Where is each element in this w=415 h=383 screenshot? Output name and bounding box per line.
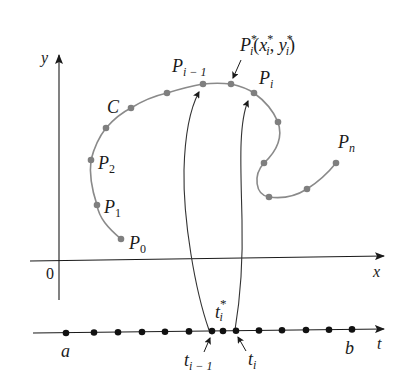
t-axis-group: a b t t*i ti − 1 ti: [33, 296, 384, 373]
curve-point: [275, 119, 282, 126]
origin-label: 0: [46, 265, 54, 282]
t-point: [326, 326, 333, 333]
curve-point: [304, 186, 311, 193]
curve-labels: C P0 P1 P2 Pi − 1 Pi Pn P*i(x*i, y*i): [97, 32, 355, 256]
t-point: [139, 329, 146, 336]
p-i-star-pointer-arrow: [233, 60, 241, 78]
point-t-i: [233, 328, 240, 335]
curve-point: [103, 125, 110, 132]
point-p-i-star: [228, 81, 235, 88]
curve-point: [261, 160, 268, 167]
t-axis-label: t: [377, 335, 382, 352]
label-p1: P1: [103, 197, 121, 220]
label-t-i-minus-1: ti − 1: [184, 350, 212, 373]
t-point: [279, 327, 286, 334]
point-p-i-minus-1: [200, 81, 207, 88]
label-p-i-minus-1: Pi − 1: [171, 56, 206, 79]
point-t-i-star: [220, 328, 227, 335]
curve-name-label: C: [107, 97, 120, 117]
t-point: [303, 327, 310, 334]
point-p-n: [333, 160, 340, 167]
point-a: [63, 330, 70, 337]
point-t-i-minus-1: [209, 328, 216, 335]
label-t-i: ti: [248, 349, 256, 372]
point-b: [349, 326, 356, 333]
point-p1: [94, 202, 101, 209]
t-point: [162, 328, 169, 335]
y-axis-label: y: [39, 49, 49, 67]
curve-c: [88, 81, 340, 243]
curve-point: [164, 90, 171, 97]
coordinate-axes: y x 0: [30, 49, 384, 300]
x-axis: [30, 256, 384, 261]
t-point: [256, 327, 263, 334]
label-a: a: [61, 341, 70, 361]
label-p0: P0: [128, 233, 146, 256]
label-p-i-star-coords: P*i(x*i, y*i): [239, 32, 295, 58]
arrow-t-i-minus-1-to-p-i-minus-1: [184, 92, 209, 330]
t-i-pointer-arrow: [238, 337, 246, 351]
curve-path: [90, 83, 336, 239]
point-p-i: [251, 90, 258, 97]
point-p2: [88, 157, 95, 164]
curve-points: [88, 81, 340, 243]
point-p0: [118, 236, 125, 243]
arrow-t-i-to-p-i: [235, 101, 248, 330]
label-t-i-star: t*i: [215, 296, 227, 324]
label-p2: P2: [97, 153, 115, 176]
label-p-i: Pi: [258, 68, 273, 91]
t-point: [91, 329, 98, 336]
t-axis-points: [63, 326, 356, 336]
curve-point: [128, 105, 135, 112]
parametric-curve-diagram: y x 0 C P0 P1: [0, 0, 415, 383]
mapping-arrows: [184, 92, 248, 330]
x-axis-label: x: [372, 263, 380, 280]
label-b: b: [345, 338, 354, 358]
curve-point: [266, 194, 273, 201]
label-p-n: Pn: [337, 132, 355, 155]
t-point: [115, 329, 122, 336]
t-point: [186, 328, 193, 335]
t-i-minus-1-pointer-arrow: [204, 338, 210, 352]
